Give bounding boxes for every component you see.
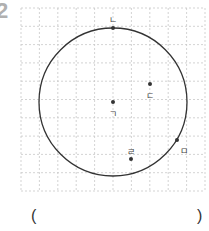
grid-circle-figure: ㄱㄴㄷㄹㅁ — [0, 0, 209, 231]
point-dot — [129, 157, 133, 161]
point-digeut: ㄷ — [146, 82, 154, 101]
point-giyeok: ㄱ — [109, 100, 117, 119]
point-mieum: ㅁ — [175, 138, 188, 156]
point-rieul: ㄹ — [127, 147, 135, 162]
dashed-grid — [21, 8, 205, 191]
diagram-stage: 2 ㄱㄴㄷㄹㅁ ( ) — [0, 0, 209, 231]
point-dot — [111, 26, 115, 30]
answer-right-paren: ) — [197, 207, 202, 225]
point-label: ㅁ — [180, 146, 188, 156]
point-label: ㄹ — [127, 147, 135, 157]
point-dot — [111, 100, 115, 104]
point-label: ㄴ — [109, 15, 117, 25]
answer-left-paren: ( — [31, 207, 36, 225]
point-label: ㄷ — [146, 91, 154, 101]
point-dot — [148, 82, 152, 86]
point-label: ㄱ — [109, 109, 117, 119]
point-dot — [175, 138, 179, 142]
